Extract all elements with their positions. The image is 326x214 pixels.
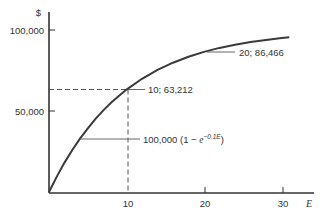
formula-prefix: 100,000 (1 − <box>143 134 199 145</box>
annotation-label-10: 10; 63,212 <box>148 84 193 95</box>
y-axis-label: $ <box>36 7 42 18</box>
y-tick-label-100000: 100,000 <box>10 25 44 36</box>
x-tick-label-30: 30 <box>278 198 289 209</box>
formula-exponent: −0.1E <box>203 133 221 140</box>
x-tick-label-10: 10 <box>123 198 134 209</box>
formula-suffix: ) <box>221 134 224 145</box>
chart: 100,000 50,000 $ 10 20 30 E 10; 63,212 2… <box>0 0 326 214</box>
x-axis-label: E <box>305 198 312 209</box>
annotation-label-20: 20; 86,466 <box>239 47 284 58</box>
data-curve <box>49 37 289 192</box>
annotation-label-formula: 100,000 (1 − e−0.1E) <box>143 133 224 145</box>
y-tick-label-50000: 50,000 <box>15 106 44 117</box>
x-tick-label-20: 20 <box>200 198 211 209</box>
